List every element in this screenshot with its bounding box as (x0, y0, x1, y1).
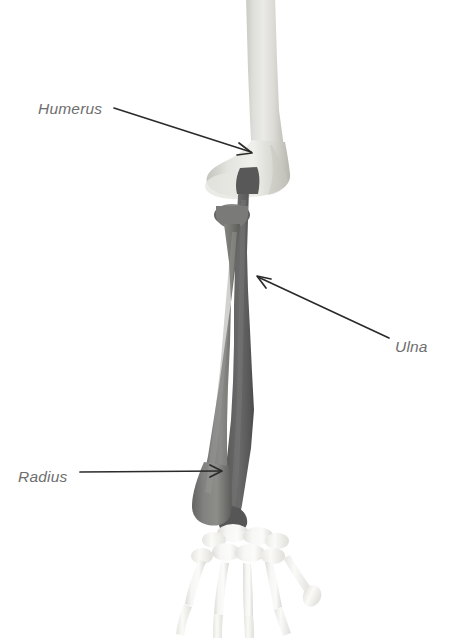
label-ulna: Ulna (395, 338, 428, 355)
ulna-olecranon (236, 167, 259, 194)
metacarpal-3 (243, 563, 253, 616)
label-humerus: Humerus (38, 100, 102, 117)
label-radius: Radius (18, 468, 67, 485)
metacarpal-1 (185, 560, 206, 606)
radius-leader-line (80, 471, 221, 472)
arm-bones-diagram: Humerus Ulna Radius (0, 0, 449, 638)
wrist-highlight (209, 531, 277, 559)
ulna-leader-line (258, 277, 389, 338)
humerus-leader-line (114, 108, 251, 152)
phalanx-3 (244, 616, 254, 638)
phalanx-1 (176, 604, 192, 636)
metacarpal-2 (214, 562, 229, 615)
humerus-shaft (246, 0, 285, 158)
leader-humerus (114, 108, 252, 155)
metacarpal-4 (265, 562, 282, 610)
leader-ulna (257, 276, 389, 338)
phalanx-4 (274, 607, 291, 636)
phalanx-2 (213, 614, 223, 638)
bone-group-hand (176, 524, 325, 638)
